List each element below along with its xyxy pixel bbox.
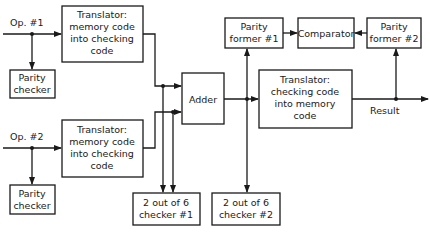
svg-text:code: code (91, 160, 114, 171)
svg-text:2 out of 6: 2 out of 6 (143, 197, 189, 208)
translator3-block: Translator: checking code into memory co… (259, 70, 352, 128)
translator1-block: Translator: memory code into checking co… (62, 6, 143, 62)
svg-text:2 out of 6: 2 out of 6 (223, 197, 269, 208)
svg-text:checker: checker (13, 200, 50, 211)
checker1-block: 2 out of 6 checker #1 (133, 193, 200, 225)
svg-text:Parity: Parity (18, 188, 45, 199)
svg-text:Parity: Parity (240, 21, 267, 32)
svg-text:memory code: memory code (69, 21, 135, 32)
parity-former1-block: Parity former #1 (225, 18, 283, 48)
junction-dot (30, 32, 34, 36)
svg-text:memory code: memory code (69, 136, 135, 147)
svg-text:Parity: Parity (380, 21, 407, 32)
checker2-block: 2 out of 6 checker #2 (212, 193, 280, 225)
svg-text:Translator:: Translator: (76, 9, 127, 20)
op2-label: Op. #2 (10, 131, 44, 142)
svg-text:Translator:: Translator: (279, 74, 330, 85)
comparator-block: Comparator (298, 18, 355, 48)
parity-checker1-block: Parity checker (10, 70, 55, 98)
svg-text:into checking: into checking (70, 33, 134, 44)
svg-text:former #1: former #1 (230, 33, 279, 44)
svg-text:code: code (294, 110, 317, 121)
svg-text:checker #2: checker #2 (219, 209, 273, 220)
svg-text:into checking: into checking (70, 148, 134, 159)
translator2-block: Translator: memory code into checking co… (62, 120, 143, 177)
adder-block: Adder (182, 73, 224, 124)
svg-text:checker #1: checker #1 (139, 209, 193, 220)
parity-former2-block: Parity former #2 (367, 18, 421, 48)
result-label: Result (370, 105, 400, 116)
parity-checker2-block: Parity checker (10, 185, 55, 214)
svg-text:former #2: former #2 (370, 33, 419, 44)
svg-text:checker: checker (13, 84, 50, 95)
svg-text:Comparator: Comparator (298, 28, 355, 39)
translator2-to-adder-wire (143, 112, 181, 148)
translator1-to-adder-wire (143, 34, 181, 86)
svg-text:Parity: Parity (18, 72, 45, 83)
svg-text:Adder: Adder (189, 94, 217, 105)
op1-label: Op. #1 (10, 17, 44, 28)
svg-text:code: code (91, 45, 114, 56)
block-diagram: Op. #1 Op. #2 Result Translator: memory … (0, 0, 430, 235)
svg-text:checking code: checking code (271, 86, 340, 97)
junction-dot (30, 146, 34, 150)
svg-text:into memory: into memory (275, 98, 336, 109)
svg-text:Translator:: Translator: (76, 124, 127, 135)
